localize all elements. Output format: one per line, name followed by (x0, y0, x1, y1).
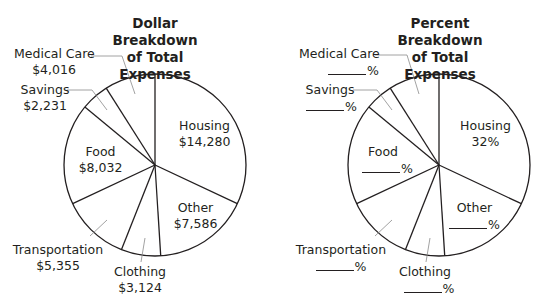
label-savings: Savings$2,231 (20, 82, 70, 114)
label-other: Other$7,586 (168, 200, 223, 232)
clothing-blank[interactable] (404, 280, 442, 293)
label-other: Other % (447, 200, 502, 233)
percent-breakdown-chart: Percent Breakdownof Total Expenses Medic… (267, 0, 534, 304)
label-housing: Housing32% (453, 118, 518, 150)
food-blank[interactable] (362, 160, 400, 173)
label-clothing: Clothing$3,124 (110, 264, 170, 296)
label-medical-care: Medical Care$4,016 (14, 46, 94, 78)
label-clothing: Clothing % (395, 264, 455, 297)
dollar-breakdown-chart: Dollar Breakdownof Total Expenses Medica… (0, 0, 267, 304)
chart-title: Dollar Breakdownof Total Expenses (90, 15, 220, 83)
label-housing: Housing$14,280 (172, 118, 237, 150)
label-medical-care: Medical Care % (299, 46, 379, 79)
transportation-blank[interactable] (316, 258, 354, 271)
label-food: Food % (362, 144, 412, 177)
other-blank[interactable] (449, 216, 487, 229)
label-transportation: Transportation$5,355 (8, 242, 108, 274)
medical-care-blank[interactable] (328, 62, 366, 75)
label-food: Food$8,032 (73, 144, 128, 176)
chart-title: Percent Breakdownof Total Expenses (375, 15, 505, 83)
label-savings: Savings % (303, 82, 357, 115)
label-transportation: Transportation % (295, 242, 387, 275)
savings-blank[interactable] (306, 98, 344, 111)
